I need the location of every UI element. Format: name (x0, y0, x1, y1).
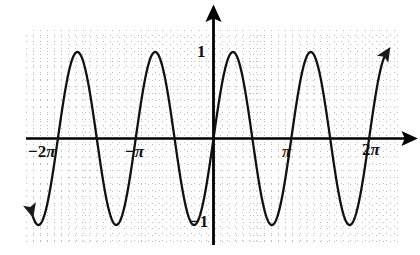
graph-canvas: −2π −π π 2π 1 −1 (0, 0, 420, 255)
xtick-label-2pi: 2π (362, 141, 380, 158)
xtick-label-pi: π (282, 143, 291, 160)
ytick-label-one: 1 (197, 43, 206, 60)
xtick-label-neg-pi: −π (125, 143, 144, 160)
ytick-label-neg-one: −1 (190, 213, 208, 230)
xtick-label-neg-2pi: −2π (28, 143, 55, 160)
sine-wave-plot (0, 0, 420, 255)
